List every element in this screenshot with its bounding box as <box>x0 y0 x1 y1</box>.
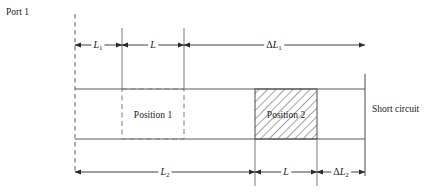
dimension-label-L2: L2 <box>158 167 171 177</box>
dimension-label-L2-base: L <box>160 166 166 177</box>
dimension-label-delta-L1: ΔL1 <box>264 40 284 50</box>
waveguide-diagram: Port 1 Short circuit Position 1 Position… <box>0 0 434 194</box>
port-1-label: Port 1 <box>6 8 29 18</box>
dimension-label-L-top: L <box>148 40 158 50</box>
dimension-label-L2-sub: 2 <box>166 171 170 179</box>
dimension-label-L1-base: L <box>93 39 99 50</box>
dimension-label-L-bottom-base: L <box>283 166 289 177</box>
dimension-label-L1-sub: 1 <box>99 44 103 52</box>
dimension-label-delta-L2: ΔL2 <box>331 167 351 177</box>
diagram-canvas <box>0 0 434 194</box>
dimension-label-delta-L1-sub: 1 <box>278 44 282 52</box>
dimension-label-L-top-base: L <box>150 39 156 50</box>
short-circuit-label: Short circuit <box>372 105 419 115</box>
dimension-label-L1: L1 <box>91 40 104 50</box>
position-1-label: Position 1 <box>134 111 172 121</box>
dimension-label-L-bottom: L <box>281 167 291 177</box>
dimension-label-delta-L2-sub: 2 <box>345 171 349 179</box>
position-2-label: Position 2 <box>267 111 305 121</box>
